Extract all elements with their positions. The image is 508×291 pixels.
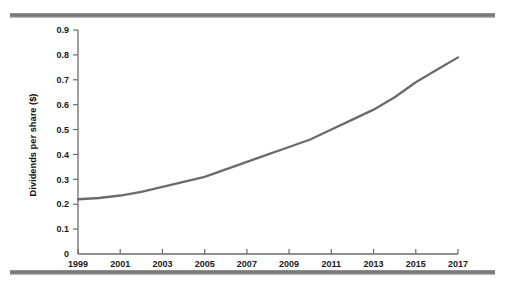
x-axis-tick-label: 2001: [110, 259, 130, 269]
x-axis-tick-label: 2007: [237, 259, 257, 269]
y-axis-tick-label: 0.2: [56, 199, 69, 209]
y-axis-tick-label: 0.3: [56, 175, 69, 185]
x-axis-tick-label: 2013: [364, 259, 384, 269]
y-axis-tick-label: 0.1: [56, 224, 69, 234]
chart-figure: 0.90.80.70.60.50.40.30.20.10 19992001200…: [0, 0, 508, 291]
x-axis-tick-label-group: 1999200120032005200720092011201320152017: [68, 259, 468, 269]
y-axis-tick-label: 0.9: [56, 25, 69, 35]
y-axis-tick-label: 0.4: [56, 150, 69, 160]
y-axis-tick-label: 0.5: [56, 125, 69, 135]
y-axis-tick-label: 0: [64, 249, 69, 259]
x-axis-tick-label: 2011: [322, 259, 342, 269]
data-series-line: [78, 57, 458, 199]
x-axis-tick-mark-group: [78, 249, 458, 254]
y-axis-tick-label: 0.8: [56, 50, 69, 60]
x-axis-tick-label: 2009: [279, 259, 299, 269]
x-axis-tick-label: 2015: [406, 259, 426, 269]
y-axis-tick-label: 0.6: [56, 100, 69, 110]
line-chart-plot: 0.90.80.70.60.50.40.30.20.10 19992001200…: [0, 0, 508, 291]
x-axis-tick-label: 2003: [152, 259, 172, 269]
x-axis-tick-label: 2017: [448, 259, 468, 269]
x-axis-tick-label: 1999: [68, 259, 88, 269]
y-axis-tick-label: 0.7: [56, 75, 69, 85]
x-axis-tick-label: 2005: [195, 259, 215, 269]
y-axis-title: Dividends per share ($): [28, 94, 38, 197]
y-axis-tick-label-group: 0.90.80.70.60.50.40.30.20.10: [56, 25, 69, 259]
